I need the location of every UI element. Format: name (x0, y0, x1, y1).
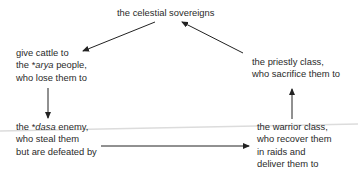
node-text: deliver them to (257, 158, 332, 170)
node-text: the celestial sovereigns (117, 7, 214, 19)
italic-term-arya: arya (35, 59, 53, 70)
node-priestly-class: the priestly class, who sacrifice them t… (252, 56, 340, 81)
arrow-sovereigns-to-arya (83, 22, 155, 51)
node-text: the warrior class, (257, 121, 332, 133)
cattle-cycle-diagram: the celestial sovereigns give cattle to … (0, 0, 358, 176)
node-text: who lose them to (16, 72, 87, 84)
arrow-priestly-to-sovereigns (182, 22, 243, 53)
text-prefix: the * (16, 121, 35, 132)
node-celestial-sovereigns: the celestial sovereigns (117, 7, 214, 19)
italic-term-dasa: dasa (35, 121, 55, 132)
node-text: who steal them (16, 133, 97, 145)
text-suffix: enemy, (56, 121, 89, 132)
node-text: the priestly class, (252, 56, 340, 68)
node-text: in raids and (257, 146, 332, 158)
node-arya-people: give cattle to the *arya people, who los… (16, 47, 87, 84)
node-text: give cattle to (16, 47, 87, 59)
text-suffix: people, (54, 59, 87, 70)
text-prefix: the * (16, 59, 35, 70)
node-text: who sacrifice them to (252, 68, 340, 80)
node-text: who recover them (257, 133, 332, 145)
node-text: the *dasa enemy, (16, 121, 97, 133)
node-dasa-enemy: the *dasa enemy, who steal them but are … (16, 121, 97, 158)
node-warrior-class: the warrior class, who recover them in r… (257, 121, 332, 171)
node-text: the *arya people, (16, 59, 87, 71)
node-text: but are defeated by (16, 146, 97, 158)
